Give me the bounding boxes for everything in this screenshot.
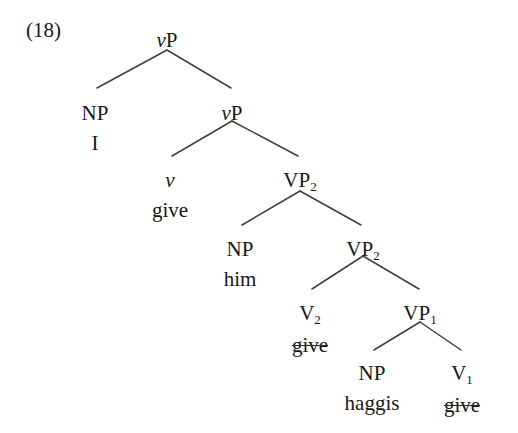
node-category-head-v-light: v <box>165 168 174 192</box>
tree-node-vp2-upper: VP2 <box>283 170 316 193</box>
branch-vp1-to-np-dobj <box>374 322 420 350</box>
tree-node-v2: V2give <box>292 303 328 356</box>
tree-node-vp-inner: vP <box>221 103 242 124</box>
node-category-head-vp-inner: v <box>221 101 230 125</box>
node-category-head-vp1: VP <box>403 301 430 325</box>
tree-node-v-light: vgive <box>152 170 188 221</box>
node-category-vp-root: vP <box>156 30 177 51</box>
branch-vp-root-to-vp-inner <box>167 50 231 88</box>
node-category-head-vp2-upper: VP <box>283 168 310 192</box>
node-category-head-np-iobj: NP <box>227 237 254 261</box>
node-category-np-dobj: NP <box>345 363 400 384</box>
node-category-v2: V2 <box>292 303 328 326</box>
node-subscript-vp2-lower: 2 <box>373 248 380 263</box>
node-word-v2: give <box>292 335 328 356</box>
node-category-v1: V1 <box>444 363 480 386</box>
branch-vp2-upper-to-vp2-lower <box>300 191 361 225</box>
node-category-tail-vp-root: P <box>166 28 178 52</box>
node-word-v-light: give <box>152 200 188 221</box>
node-word-v1: give <box>444 395 480 416</box>
node-category-head-v2: V <box>299 301 314 325</box>
branch-vp-root-to-np-subj <box>97 50 167 88</box>
tree-node-np-subj: NPI <box>82 103 109 154</box>
node-subscript-v1: 1 <box>466 372 473 387</box>
branch-vp1-to-v1 <box>420 322 461 350</box>
syntax-tree-figure: (18) vPNPIvPvgiveVP2NPhimVP2V2giveVP1NPh… <box>0 0 518 433</box>
node-word-np-iobj: him <box>224 269 257 290</box>
node-category-vp2-upper: VP2 <box>283 170 316 193</box>
node-category-np-subj: NP <box>82 103 109 124</box>
node-category-head-vp-root: v <box>156 28 165 52</box>
node-word-np-dobj: haggis <box>345 393 400 414</box>
tree-node-np-iobj: NPhim <box>224 239 257 290</box>
node-category-vp1: VP1 <box>403 303 436 326</box>
node-subscript-vp1: 1 <box>430 312 437 327</box>
branch-vp-inner-to-vp2-upper <box>232 121 298 156</box>
tree-node-vp2-lower: VP2 <box>346 239 379 262</box>
node-category-vp2-lower: VP2 <box>346 239 379 262</box>
node-category-v-light: v <box>152 170 188 191</box>
node-word-np-subj: I <box>82 133 109 154</box>
tree-branch-layer <box>0 0 518 433</box>
node-category-np-iobj: NP <box>224 239 257 260</box>
tree-node-vp1: VP1 <box>403 303 436 326</box>
node-category-head-np-subj: NP <box>82 101 109 125</box>
node-subscript-v2: 2 <box>314 312 321 327</box>
node-category-tail-vp-inner: P <box>231 101 243 125</box>
tree-node-vp-root: vP <box>156 30 177 51</box>
node-category-head-vp2-lower: VP <box>346 237 373 261</box>
node-subscript-vp2-upper: 2 <box>310 179 317 194</box>
node-category-vp-inner: vP <box>221 103 242 124</box>
branch-vp-inner-to-v-light <box>172 121 232 156</box>
node-category-head-v1: V <box>451 361 466 385</box>
node-category-head-np-dobj: NP <box>359 361 386 385</box>
tree-node-v1: V1give <box>444 363 480 416</box>
tree-node-np-dobj: NPhaggis <box>345 363 400 414</box>
branch-vp2-upper-to-np-iobj <box>242 191 300 225</box>
